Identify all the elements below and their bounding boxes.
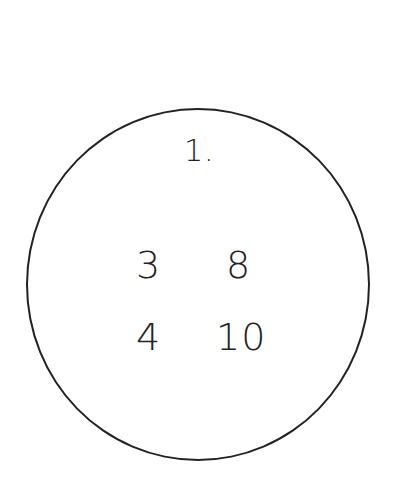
- number-top-right: 8: [226, 246, 251, 284]
- number-bottom-left: 4: [136, 318, 161, 356]
- item-label: 1.: [184, 136, 215, 166]
- number-top-left: 3: [136, 246, 161, 284]
- number-bottom-right: 10: [216, 318, 266, 356]
